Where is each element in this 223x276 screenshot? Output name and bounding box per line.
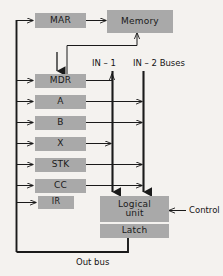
box-b[interactable]: B <box>35 116 86 130</box>
box-latch[interactable]: Latch <box>100 224 169 238</box>
box-stk[interactable]: STK <box>35 158 86 172</box>
box-stk-label: STK <box>52 160 70 169</box>
box-logical-unit-label-line2: unit <box>125 209 143 218</box>
box-mdr[interactable]: MDR <box>35 74 86 88</box>
box-memory[interactable]: Memory <box>107 10 173 33</box>
label-in1: IN – 1 <box>92 58 116 68</box>
box-b-label: B <box>57 118 63 127</box>
box-cc[interactable]: CC <box>35 179 86 193</box>
box-a[interactable]: A <box>35 95 86 109</box>
label-control: Control <box>189 205 220 215</box>
register-to-bus-wires <box>86 102 142 186</box>
box-ir-label: IR <box>52 198 60 206</box>
label-out-bus: Out bus <box>76 257 109 267</box>
box-mar[interactable]: MAR <box>35 13 86 28</box>
box-ir[interactable]: IR <box>38 196 74 209</box>
box-x-label: X <box>57 139 63 148</box>
box-memory-label: Memory <box>121 17 159 26</box>
box-a-label: A <box>57 97 63 106</box>
cpu-datapath-diagram: MAR Memory MDR A B X STK CC IR Logical u… <box>0 0 223 276</box>
label-in2-buses: IN – 2 Buses <box>133 58 185 68</box>
mdr-to-in1-wire <box>86 74 112 81</box>
box-mar-label: MAR <box>50 16 71 25</box>
box-logical-unit[interactable]: Logical unit <box>100 196 169 222</box>
latch-to-out-bus-wire <box>17 238 129 252</box>
box-x[interactable]: X <box>35 137 86 151</box>
left-bus-branches <box>17 21 36 203</box>
box-mdr-label: MDR <box>50 76 72 85</box>
box-cc-label: CC <box>54 181 67 190</box>
box-latch-label: Latch <box>122 226 148 235</box>
